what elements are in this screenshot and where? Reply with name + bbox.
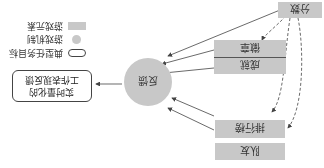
legend-mechanism: 游戏机制 <box>27 33 86 46</box>
legend-element: 游戏元素 <box>27 20 86 33</box>
points-element: 分数 <box>278 2 322 18</box>
legend-element-label: 游戏元素 <box>27 20 63 33</box>
feedback-mechanism: 反馈 <box>124 58 172 106</box>
leaderboard-element: 排行榜 <box>215 120 285 138</box>
goal-legend-swatch <box>68 50 86 58</box>
legend-mechanism-label: 游戏机制 <box>27 33 63 46</box>
element-legend-swatch <box>68 23 86 31</box>
mechanism-legend-swatch <box>72 35 81 44</box>
achievements-label: 成就 <box>240 59 260 74</box>
teammates-element: 队友 <box>215 143 285 160</box>
goal-box: 实时量化的 工作表现反馈 <box>12 70 92 102</box>
leaderboard-label: 排行榜 <box>235 122 265 137</box>
legend-goal-label: 典型任务目标 <box>9 47 63 60</box>
gamification-diagram: 队友 排行榜 成就 徽章 分数 反馈 实时量化的 工作表现反馈 典型任务目标 游… <box>0 0 324 168</box>
badges-label: 徽章 <box>240 41 260 56</box>
goal-line-2: 工作表现反馈 <box>25 74 79 86</box>
teammates-label: 队友 <box>240 144 260 159</box>
goal-line-1: 实时量化的 <box>30 86 75 98</box>
feedback-label: 反馈 <box>138 75 158 90</box>
legend-goal: 典型任务目标 <box>9 47 86 60</box>
badges-element: 徽章 <box>214 40 286 58</box>
points-label: 分数 <box>290 3 310 18</box>
achievements-element: 成就 <box>214 58 286 74</box>
